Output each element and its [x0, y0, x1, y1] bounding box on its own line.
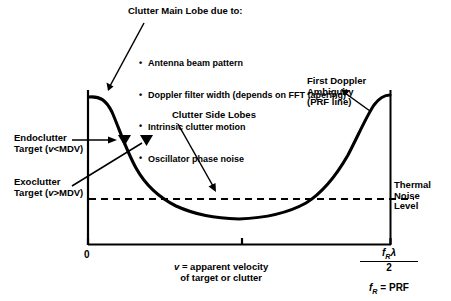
- prf-definition-label: fR = PRF: [360, 282, 418, 296]
- main-lobe-bullet: Antenna beam pattern: [139, 58, 346, 68]
- main-lobe-arrowhead: [107, 83, 114, 92]
- x-axis-max-label: fRλ 2: [360, 248, 418, 273]
- x-axis-max-denominator: 2: [360, 262, 418, 274]
- clutter-side-lobes-label: Clutter Side Lobes: [172, 110, 256, 121]
- exoclutter-target-label: Exoclutter Target (v>MDV): [14, 177, 83, 198]
- clutter-spectrum-figure: Clutter Main Lobe due to: Antenna beam p…: [0, 0, 451, 301]
- main-lobe-title: Clutter Main Lobe due to:: [128, 6, 243, 17]
- main-lobe-bullet: Oscillator phase noise: [139, 154, 346, 164]
- x-axis-max-numerator: fRλ: [360, 248, 418, 262]
- first-doppler-ambiguity-label: First Doppler Ambiguity (PRF line): [307, 76, 366, 108]
- thermal-noise-level-label: Thermal Noise Level: [394, 180, 431, 212]
- main-lobe-bullet: Intrinsic clutter motion: [139, 122, 346, 132]
- endoclutter-target-label: Endoclutter Target (v<MDV): [14, 133, 83, 154]
- endoclutter-target-marker: [118, 135, 131, 146]
- x-axis-origin-label: 0: [84, 249, 90, 260]
- x-axis-caption: v = apparent velocity of target or clutt…: [174, 262, 268, 283]
- endoclutter-arrowhead: [108, 137, 117, 144]
